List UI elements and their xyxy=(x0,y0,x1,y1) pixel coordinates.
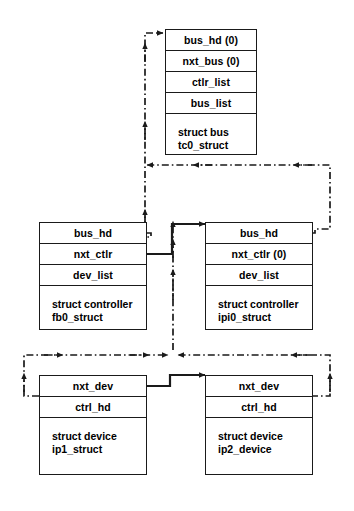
field-nxt-ctlr[interactable]: nxt_ctlr (0) xyxy=(206,244,312,265)
node-caption: struct device ip1_struct xyxy=(40,418,146,456)
field-nxt-dev[interactable]: nxt_dev xyxy=(40,376,146,397)
node-struct-device-ip2[interactable]: nxt_dev ctrl_hd struct device ip2_device xyxy=(205,375,313,475)
field-nxt-dev[interactable]: nxt_dev xyxy=(206,376,312,397)
caption-line-name: tc0_struct xyxy=(178,139,256,152)
caption-line-name: ip1_struct xyxy=(52,443,146,456)
field-bus-hd[interactable]: bus_hd (0) xyxy=(166,30,256,51)
caption-line-type: struct bus xyxy=(178,126,256,139)
field-dev-list[interactable]: dev_list xyxy=(206,265,312,286)
caption-line-type: struct controller xyxy=(218,298,312,311)
diagram-canvas: bus_hd (0) nxt_bus (0) ctlr_list bus_lis… xyxy=(0,0,354,511)
node-caption: struct device ip2_device xyxy=(206,418,312,456)
field-ctrl-hd[interactable]: ctrl_hd xyxy=(206,397,312,418)
node-caption: struct controller fb0_struct xyxy=(40,286,146,324)
node-struct-controller-ipi0[interactable]: bus_hd nxt_ctlr (0) dev_list struct cont… xyxy=(205,222,313,330)
field-bus-list[interactable]: bus_list xyxy=(166,93,256,114)
node-caption: struct bus tc0_struct xyxy=(166,114,256,152)
field-bus-hd[interactable]: bus_hd xyxy=(40,223,146,244)
caption-line-name: fb0_struct xyxy=(52,311,146,324)
caption-line-type: struct device xyxy=(52,430,146,443)
caption-line-type: struct controller xyxy=(52,298,146,311)
field-nxt-ctlr[interactable]: nxt_ctlr xyxy=(40,244,146,265)
wire-fb0-nxtctlr-to-ipi0 xyxy=(147,224,205,254)
caption-line-name: ip2_device xyxy=(218,443,312,456)
caption-line-type: struct device xyxy=(218,430,312,443)
caption-line-name: ipi0_struct xyxy=(218,311,312,324)
node-caption: struct controller ipi0_struct xyxy=(206,286,312,324)
field-bus-hd[interactable]: bus_hd xyxy=(206,223,312,244)
wire-fb0-bushd-to-bus xyxy=(145,33,163,237)
field-ctlr-list[interactable]: ctlr_list xyxy=(166,72,256,93)
field-dev-list[interactable]: dev_list xyxy=(40,265,146,286)
field-ctrl-hd[interactable]: ctrl_hd xyxy=(40,397,146,418)
node-struct-controller-fb0[interactable]: bus_hd nxt_ctlr dev_list struct controll… xyxy=(39,222,147,330)
node-struct-bus[interactable]: bus_hd (0) nxt_bus (0) ctlr_list bus_lis… xyxy=(165,29,257,155)
field-nxt-bus[interactable]: nxt_bus (0) xyxy=(166,51,256,72)
node-struct-device-ip1[interactable]: nxt_dev ctrl_hd struct device ip1_struct xyxy=(39,375,147,475)
wire-ip1-nxtdev-to-ip2 xyxy=(147,375,205,386)
